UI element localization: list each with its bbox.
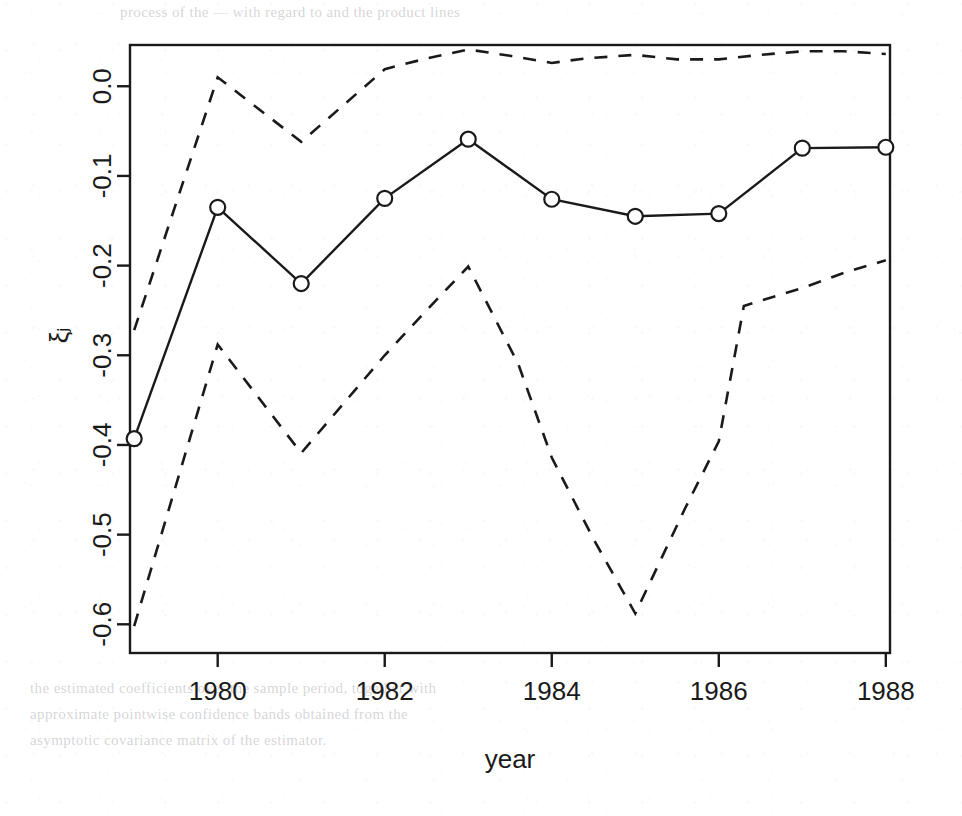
data-point-marker (377, 191, 392, 206)
y-tick-label: -0.2 (87, 243, 117, 288)
y-axis-ticks: 0.0-0.1-0.2-0.3-0.4-0.5-0.6 (87, 68, 130, 647)
y-axis-title: ξⱼ (44, 327, 74, 344)
data-point-marker (294, 276, 309, 291)
x-tick-label: 1982 (356, 676, 414, 706)
y-tick-label: 0.0 (87, 68, 117, 104)
estimate-line (134, 139, 886, 439)
data-point-marker (210, 200, 225, 215)
estimate-markers (127, 132, 894, 447)
y-tick-label: -0.6 (87, 602, 117, 647)
data-point-marker (544, 192, 559, 207)
axis-titles: year ξⱼ (44, 327, 536, 774)
x-axis-title: year (485, 744, 536, 774)
x-tick-label: 1980 (189, 676, 247, 706)
line-chart-figure: 0.0-0.1-0.2-0.3-0.4-0.5-0.6 198019821984… (0, 0, 962, 816)
data-point-marker (461, 132, 476, 147)
x-tick-label: 1988 (857, 676, 915, 706)
y-tick-label: -0.5 (87, 512, 117, 557)
x-axis-ticks: 19801982198419861988 (189, 653, 915, 706)
upper-confidence-band (134, 49, 886, 330)
data-point-marker (127, 431, 142, 446)
data-point-marker (711, 206, 726, 221)
x-tick-label: 1986 (690, 676, 748, 706)
y-tick-label: -0.4 (87, 423, 117, 468)
data-point-marker (795, 141, 810, 156)
lower-confidence-band (134, 260, 886, 626)
x-tick-label: 1984 (523, 676, 581, 706)
y-tick-label: -0.3 (87, 333, 117, 378)
y-tick-label: -0.1 (87, 154, 117, 199)
data-series-layer (127, 49, 894, 626)
data-point-marker (628, 209, 643, 224)
data-point-marker (878, 140, 893, 155)
